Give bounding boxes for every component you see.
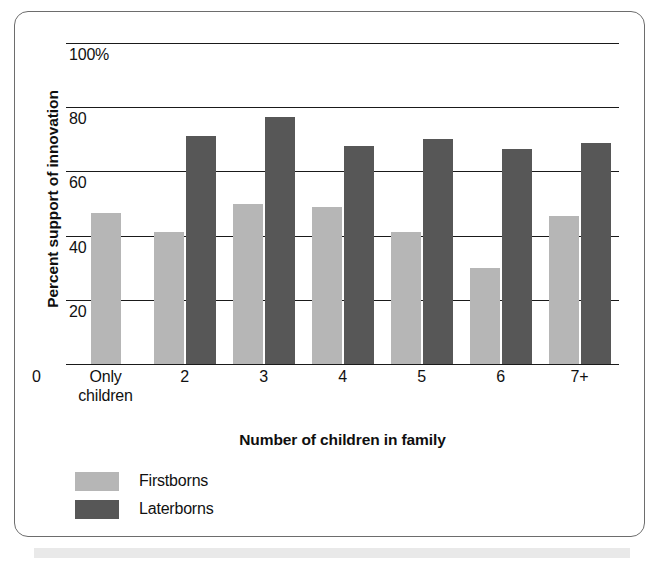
x-tick-line1: Only xyxy=(66,367,145,386)
bar-firstborns-2 xyxy=(154,232,184,364)
x-axis-ticks: Onlychildren234567+ xyxy=(66,367,619,413)
x-tick-line1: 3 xyxy=(224,367,303,386)
bar-firstborns-5 xyxy=(391,232,421,364)
bar-firstborns-6 xyxy=(470,268,500,364)
x-tick-label-2: 3 xyxy=(224,367,303,386)
bar-laterborns-7+ xyxy=(581,143,611,364)
x-tick-line2: children xyxy=(66,386,145,405)
x-tick-label-6: 7+ xyxy=(540,367,619,386)
bar-firstborns-4 xyxy=(312,207,342,364)
x-tick-line1: 6 xyxy=(461,367,540,386)
plot-area: 20406080100% xyxy=(66,43,619,364)
bar-firstborns-7+ xyxy=(549,216,579,364)
legend-swatch-firstborns xyxy=(75,472,119,491)
legend-item-firstborns: Firstborns xyxy=(75,467,214,495)
bar-laterborns-2 xyxy=(186,136,216,364)
legend-item-laterborns: Laterborns xyxy=(75,495,214,523)
x-tick-line1: 2 xyxy=(145,367,224,386)
x-axis-title: Number of children in family xyxy=(66,431,619,449)
bar-laterborns-3 xyxy=(265,117,295,364)
x-tick-line1: 7+ xyxy=(540,367,619,386)
bar-firstborns-3 xyxy=(233,204,263,365)
bar-laterborns-5 xyxy=(423,139,453,364)
bar-firstborns-Only-children xyxy=(91,213,121,364)
legend-label-laterborns: Laterborns xyxy=(139,500,214,518)
bar-laterborns-6 xyxy=(502,149,532,364)
x-tick-label-3: 4 xyxy=(303,367,382,386)
y-axis-title: Percent support of innovation xyxy=(44,49,62,349)
x-tick-line1: 4 xyxy=(303,367,382,386)
x-tick-label-1: 2 xyxy=(145,367,224,386)
bar-laterborns-4 xyxy=(344,146,374,364)
y-axis-zero-label: 0 xyxy=(32,367,41,386)
legend-label-firstborns: Firstborns xyxy=(139,472,208,490)
chart-legend: FirstbornsLaterborns xyxy=(75,467,214,523)
x-tick-label-5: 6 xyxy=(461,367,540,386)
legend-swatch-laterborns xyxy=(75,500,119,519)
page-bottom-strip xyxy=(34,548,630,558)
x-tick-line1: 5 xyxy=(382,367,461,386)
x-tick-label-0: Onlychildren xyxy=(66,367,145,405)
bars-group xyxy=(66,43,619,364)
x-tick-label-4: 5 xyxy=(382,367,461,386)
gridline-0 xyxy=(66,364,619,365)
chart-figure-frame: Percent support of innovation 2040608010… xyxy=(14,11,645,537)
